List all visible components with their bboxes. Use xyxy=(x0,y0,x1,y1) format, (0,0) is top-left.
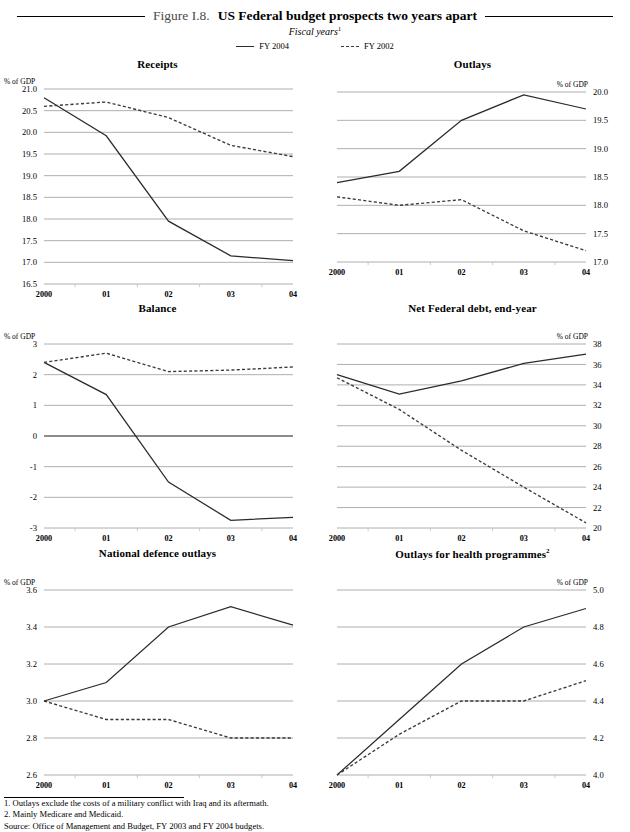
y-tick-label: 17.5 xyxy=(593,229,608,239)
y-tick-label: 3 xyxy=(33,339,37,349)
y-tick-label: 18.5 xyxy=(593,172,608,182)
x-tick-label: 03 xyxy=(520,268,528,277)
y-tick-label: 17.0 xyxy=(593,257,608,267)
series-line-fy2004 xyxy=(44,98,293,261)
series-line-fy2002 xyxy=(337,681,586,775)
x-tick-label: 03 xyxy=(520,781,528,790)
y-tick-label: 21.0 xyxy=(22,84,37,94)
x-tick-label: 01 xyxy=(395,781,403,790)
x-tick-label: 01 xyxy=(102,534,110,543)
footnote-2: 2. Mainly Medicare and Medicaid. xyxy=(4,809,624,820)
y-tick-label: 2.8 xyxy=(26,733,37,743)
legend-swatch-dotted-icon xyxy=(341,46,359,47)
figure-page: Figure I.8. US Federal budget prospects … xyxy=(0,0,630,832)
series-line-fy2004 xyxy=(44,607,293,701)
x-tick-label: 02 xyxy=(457,781,465,790)
x-tick-label: 03 xyxy=(520,534,528,543)
x-tick-label: 01 xyxy=(102,290,110,299)
chart-panel-outlays-health-programmes: Outlays for health programmes2% of GDP5.… xyxy=(315,547,630,792)
y-tick-label: 34 xyxy=(593,380,602,390)
figure-subtitle: Fiscal years1 xyxy=(0,25,630,37)
chart-svg-receipts: 21.020.520.019.519.018.518.017.517.016.5… xyxy=(0,58,315,303)
y-tick-label: 19.0 xyxy=(593,144,608,154)
chart-svg-national-defence-outlays: 3.63.43.23.02.82.6200001020304 xyxy=(0,547,315,792)
x-tick-label: 03 xyxy=(227,781,235,790)
x-tick-label: 04 xyxy=(289,290,297,299)
x-tick-label: 04 xyxy=(582,781,590,790)
y-tick-label: 4.2 xyxy=(593,733,604,743)
y-tick-label: 0 xyxy=(33,431,37,441)
y-tick-label: 36 xyxy=(593,360,602,370)
y-tick-label: 17.0 xyxy=(22,257,37,267)
series-line-fy2004 xyxy=(44,362,293,520)
series-line-fy2002 xyxy=(337,197,586,251)
y-tick-label: 17.5 xyxy=(22,236,37,246)
y-tick-label: 19.5 xyxy=(22,149,37,159)
x-tick-label: 2000 xyxy=(329,781,345,790)
x-tick-label: 04 xyxy=(289,534,297,543)
x-tick-label: 01 xyxy=(395,268,403,277)
series-line-fy2002 xyxy=(337,378,586,523)
figure-subtitle-text: Fiscal years xyxy=(289,26,338,37)
legend-label-fy2002: FY 2002 xyxy=(364,41,394,51)
y-tick-label: 22 xyxy=(593,503,602,513)
x-tick-label: 04 xyxy=(582,268,590,277)
chart-legend: FY 2004 FY 2002 xyxy=(0,41,630,51)
chart-panel-balance: Balance% of GDP3210-1-2-3200001020304 xyxy=(0,302,315,547)
y-tick-label: -1 xyxy=(30,462,37,472)
x-tick-label: 02 xyxy=(164,781,172,790)
y-tick-label: 19.0 xyxy=(22,171,37,181)
chart-panel-outlays: Outlays% of GDP20.019.519.018.518.017.51… xyxy=(315,58,630,303)
y-tick-label: 38 xyxy=(593,339,602,349)
y-tick-label: 20 xyxy=(593,523,602,533)
x-tick-label: 03 xyxy=(227,534,235,543)
y-tick-label: 19.5 xyxy=(593,115,608,125)
x-tick-label: 02 xyxy=(457,268,465,277)
legend-item-fy2002: FY 2002 xyxy=(341,41,394,51)
y-tick-label: 3.4 xyxy=(26,622,37,632)
y-tick-label: 18.5 xyxy=(22,192,37,202)
footnote-1: 1. Outlays exclude the costs of a milita… xyxy=(4,798,624,809)
chart-panel-receipts: Receipts% of GDP21.020.520.019.519.018.5… xyxy=(0,58,315,303)
y-tick-label: 1 xyxy=(33,400,37,410)
y-tick-label: -3 xyxy=(30,523,37,533)
figure-number: Figure I.8. xyxy=(153,8,210,24)
figure-header: Figure I.8. US Federal budget prospects … xyxy=(0,6,630,26)
y-tick-label: 5.0 xyxy=(593,585,604,595)
y-tick-label: 18.0 xyxy=(593,200,608,210)
series-line-fy2002 xyxy=(44,701,293,738)
x-tick-label: 2000 xyxy=(36,290,52,299)
y-tick-label: 24 xyxy=(593,482,602,492)
y-tick-label: 3.6 xyxy=(26,585,37,595)
y-tick-label: 28 xyxy=(593,441,602,451)
series-line-fy2004 xyxy=(337,354,586,394)
y-tick-label: 2 xyxy=(33,370,37,380)
figure-subtitle-footnote-marker: 1 xyxy=(338,25,342,33)
chart-panel-net-federal-debt: Net Federal debt, end-year% of GDP383634… xyxy=(315,302,630,547)
y-tick-label: 4.4 xyxy=(593,696,604,706)
chart-svg-outlays: 20.019.519.018.518.017.517.0200001020304 xyxy=(315,58,630,303)
y-tick-label: 4.6 xyxy=(593,659,604,669)
chart-svg-net-federal-debt: 38363432302826242220200001020304 xyxy=(315,302,630,547)
x-tick-label: 2000 xyxy=(36,781,52,790)
chart-svg-outlays-health-programmes: 5.04.84.64.44.24.0200001020304 xyxy=(315,547,630,792)
x-tick-label: 2000 xyxy=(329,534,345,543)
x-tick-label: 03 xyxy=(227,290,235,299)
x-tick-label: 2000 xyxy=(36,534,52,543)
x-tick-label: 01 xyxy=(102,781,110,790)
series-line-fy2002 xyxy=(44,353,293,371)
header-rule-right xyxy=(485,16,613,17)
x-tick-label: 02 xyxy=(164,534,172,543)
y-tick-label: 30 xyxy=(593,421,602,431)
y-tick-label: 4.8 xyxy=(593,622,604,632)
series-line-fy2004 xyxy=(337,95,586,183)
series-line-fy2002 xyxy=(44,102,293,157)
y-tick-label: 18.0 xyxy=(22,214,37,224)
legend-swatch-solid-icon xyxy=(236,46,254,47)
y-tick-label: 20.5 xyxy=(22,106,37,116)
figure-title: US Federal budget prospects two years ap… xyxy=(218,8,477,24)
legend-label-fy2004: FY 2004 xyxy=(259,41,289,51)
chart-svg-balance: 3210-1-2-3200001020304 xyxy=(0,302,315,547)
y-tick-label: 3.0 xyxy=(26,696,37,706)
y-tick-label: 20.0 xyxy=(22,127,37,137)
